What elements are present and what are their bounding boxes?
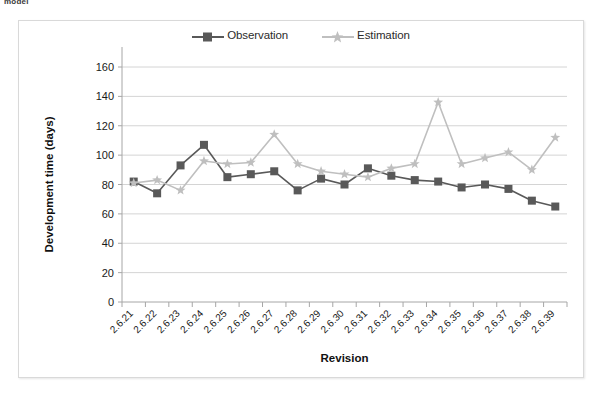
marker-estimation-2.6.31 [363,172,373,181]
marker-estimation-2.6.36 [480,153,490,162]
series-line-estimation [134,102,556,190]
marker-observation-2.6.34 [434,178,442,186]
marker-observation-2.6.31 [364,164,372,172]
y-axis-title: Development time (days) [43,116,55,252]
x-axis-title: Revision [321,352,369,364]
marker-estimation-2.6.35 [457,159,467,168]
clipped-caption-text: model [4,0,29,5]
x-tick-label-2.6.34: 2.6.34 [412,307,440,335]
y-tick-label-0: 0 [108,296,114,308]
marker-observation-2.6.28 [294,186,302,194]
x-tick-label-2.6.31: 2.6.31 [342,307,370,335]
marker-estimation-2.6.34 [433,97,443,106]
x-tick-label-2.6.22: 2.6.22 [131,307,159,335]
y-tick-labels-group: 020406080100120140160 [96,61,114,308]
marker-observation-2.6.27 [270,167,278,175]
y-tick-label-140: 140 [96,90,114,102]
y-tick-label-120: 120 [96,120,114,132]
marker-observation-2.6.26 [247,170,255,178]
chart-plot-area: 020406080100120140160 2.6.212.6.222.6.23… [19,21,585,379]
y-tick-label-100: 100 [96,149,114,161]
marker-observation-2.6.32 [387,172,395,180]
marker-observation-2.6.37 [504,185,512,193]
marker-observation-2.6.22 [153,189,161,197]
y-tick-label-20: 20 [102,267,114,279]
y-tick-marks-group [118,67,122,302]
marker-observation-2.6.36 [481,181,489,189]
x-tick-label-2.6.35: 2.6.35 [436,307,464,335]
chart-container: Observation Estimation 02040608010012014… [18,20,584,378]
marker-observation-2.6.29 [317,175,325,183]
marker-estimation-2.6.30 [340,169,350,178]
x-tick-label-2.6.25: 2.6.25 [201,307,229,335]
x-tick-label-2.6.21: 2.6.21 [108,307,136,335]
x-tick-label-2.6.38: 2.6.38 [506,307,534,335]
x-tick-label-2.6.28: 2.6.28 [272,307,300,335]
x-tick-label-2.6.23: 2.6.23 [155,307,183,335]
marker-observation-2.6.23 [177,161,185,169]
y-tick-label-160: 160 [96,61,114,73]
marker-estimation-2.6.29 [316,166,326,175]
x-tick-label-2.6.39: 2.6.39 [529,307,557,335]
marker-estimation-2.6.33 [410,159,420,168]
marker-estimation-2.6.22 [152,175,162,184]
x-tick-labels-group: 2.6.212.6.222.6.232.6.242.6.252.6.262.6.… [108,307,557,335]
x-tick-label-2.6.26: 2.6.26 [225,307,253,335]
marker-estimation-2.6.27 [269,129,279,138]
x-tick-label-2.6.27: 2.6.27 [248,307,276,335]
x-tick-label-2.6.36: 2.6.36 [459,307,487,335]
marker-estimation-2.6.25 [222,159,232,168]
x-tick-marks-group [122,302,567,307]
marker-observation-2.6.39 [551,203,559,211]
y-tick-label-80: 80 [102,179,114,191]
marker-estimation-2.6.24 [199,156,209,165]
marker-observation-2.6.25 [223,173,231,181]
marker-estimation-2.6.39 [550,132,560,141]
marker-observation-2.6.33 [411,176,419,184]
x-tick-label-2.6.24: 2.6.24 [178,307,206,335]
marker-observation-2.6.30 [341,181,349,189]
y-tick-label-60: 60 [102,208,114,220]
x-tick-label-2.6.30: 2.6.30 [318,307,346,335]
series-lines-group [129,97,560,210]
x-tick-label-2.6.37: 2.6.37 [482,307,510,335]
x-tick-label-2.6.32: 2.6.32 [365,307,393,335]
marker-observation-2.6.38 [528,197,536,205]
marker-observation-2.6.24 [200,141,208,149]
y-tick-label-40: 40 [102,237,114,249]
marker-observation-2.6.35 [458,183,466,191]
series-estimation [129,97,560,195]
x-tick-label-2.6.33: 2.6.33 [389,307,417,335]
marker-estimation-2.6.32 [386,163,396,172]
x-tick-label-2.6.29: 2.6.29 [295,307,323,335]
